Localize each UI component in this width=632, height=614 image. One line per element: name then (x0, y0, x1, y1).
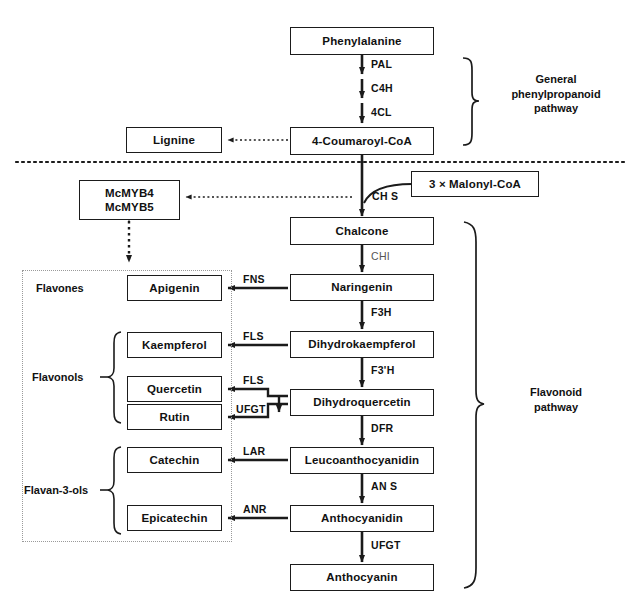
node-coumaroyl-coa[interactable]: 4-Coumaroyl-CoA (290, 127, 434, 155)
node-mcmyb[interactable]: McMYB4 McMYB5 (79, 180, 180, 220)
node-apigenin-label: Apigenin (149, 281, 199, 295)
node-epicatechin[interactable]: Epicatechin (127, 505, 222, 531)
enzyme-pal: PAL (371, 58, 392, 70)
enzyme-anr: ANR (243, 503, 267, 515)
label-flavonoid-pathway: Flavonoid pathway (496, 385, 616, 414)
brace-flavonoid-pathway (464, 222, 484, 588)
enzyme-c4h: C4H (371, 82, 393, 94)
label-general-phenylpropanoid-pathway: General phenylpropanoid pathway (492, 72, 620, 116)
node-dihydroquercetin-label: Dihydroquercetin (313, 395, 411, 409)
group-label-flavan3ols: Flavan-3-ols (24, 484, 88, 496)
node-naringenin-label: Naringenin (331, 280, 393, 294)
general-pathway-line1: General (492, 72, 620, 87)
enzyme-f3h: F3H (371, 306, 392, 318)
node-chalcone-label: Chalcone (336, 224, 389, 238)
node-dihydrokaempferol-label: Dihydrokaempferol (308, 337, 415, 351)
enzyme-lar: LAR (243, 445, 265, 457)
node-dihydrokaempferol[interactable]: Dihydrokaempferol (290, 331, 434, 358)
group-label-flavones: Flavones (36, 282, 84, 294)
arrow-fls-quercetin (228, 389, 288, 396)
enzyme-fls-kaempferol: FLS (243, 330, 264, 342)
node-apigenin[interactable]: Apigenin (127, 275, 222, 301)
node-leucoanthocyanidin[interactable]: Leucoanthocyanidin (290, 447, 434, 474)
node-leucoanthocyanidin-label: Leucoanthocyanidin (305, 453, 420, 467)
node-anthocyanin[interactable]: Anthocyanin (290, 564, 434, 591)
enzyme-f3ph: F3'H (371, 364, 395, 376)
node-anthocyanidin-label: Anthocyanidin (321, 511, 403, 525)
node-phenylalanine-label: Phenylalanine (322, 34, 401, 48)
flavonoid-pathway-line2: pathway (496, 400, 616, 415)
node-mcmyb5-label: McMYB5 (105, 200, 154, 214)
enzyme-chs: CH S (372, 190, 398, 202)
node-malonyl-coa[interactable]: 3 × Malonyl-CoA (411, 171, 539, 197)
node-malonyl-coa-label: 3 × Malonyl-CoA (429, 177, 521, 191)
enzyme-chi: CHI (371, 250, 390, 262)
enzyme-ans: AN S (371, 480, 397, 492)
enzyme-fns: FNS (243, 273, 265, 285)
node-coumaroyl-coa-label: 4-Coumaroyl-CoA (312, 134, 412, 148)
enzyme-4cl: 4CL (371, 106, 392, 118)
brace-general-pathway (463, 58, 479, 145)
node-anthocyanidin[interactable]: Anthocyanidin (290, 505, 434, 532)
node-rutin-label: Rutin (159, 410, 189, 424)
group-label-flavonols: Flavonols (32, 371, 83, 383)
node-dihydroquercetin[interactable]: Dihydroquercetin (290, 389, 434, 416)
general-pathway-line2: phenylpropanoid (492, 87, 620, 102)
node-quercetin[interactable]: Quercetin (127, 376, 222, 402)
node-lignine[interactable]: Lignine (126, 127, 222, 153)
node-chalcone[interactable]: Chalcone (290, 217, 434, 245)
node-kaempferol[interactable]: Kaempferol (127, 332, 222, 358)
flavonoid-pathway-line1: Flavonoid (496, 385, 616, 400)
node-catechin-label: Catechin (150, 453, 200, 467)
node-anthocyanin-label: Anthocyanin (326, 570, 397, 584)
pathway-diagram: Phenylalanine 4-Coumaroyl-CoA Lignine 3 … (0, 0, 632, 614)
enzyme-fls-quercetin: FLS (243, 374, 264, 386)
enzyme-dfr: DFR (371, 422, 393, 434)
node-mcmyb4-label: McMYB4 (105, 186, 154, 200)
node-quercetin-label: Quercetin (147, 382, 202, 396)
node-naringenin[interactable]: Naringenin (290, 274, 434, 301)
node-phenylalanine[interactable]: Phenylalanine (290, 27, 434, 55)
enzyme-ufgt-rutin: UFGT (236, 403, 266, 415)
node-kaempferol-label: Kaempferol (142, 338, 207, 352)
node-epicatechin-label: Epicatechin (141, 511, 207, 525)
node-catechin[interactable]: Catechin (127, 447, 222, 473)
general-pathway-line3: pathway (492, 101, 620, 116)
node-lignine-label: Lignine (153, 133, 195, 147)
node-rutin[interactable]: Rutin (127, 404, 222, 430)
enzyme-ufgt-main: UFGT (371, 539, 401, 551)
